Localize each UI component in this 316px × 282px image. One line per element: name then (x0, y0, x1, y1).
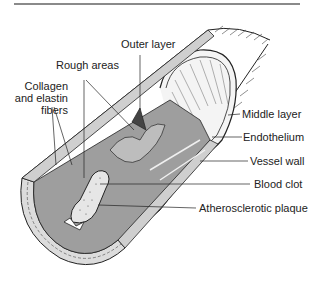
label-blood-clot: Blood clot (254, 178, 302, 190)
label-rough-areas: Rough areas (56, 59, 119, 71)
label-collagen-line2: and elastin (8, 92, 68, 104)
label-endothelium: Endothelium (243, 131, 304, 143)
label-vessel-wall: Vessel wall (250, 155, 304, 167)
label-outer-layer: Outer layer (121, 38, 175, 50)
label-collagen-fibers: Collagen and elastin fibers (8, 80, 68, 116)
label-atherosclerotic-plaque: Atherosclerotic plaque (199, 202, 308, 214)
label-collagen-line1: Collagen (8, 80, 68, 92)
label-middle-layer: Middle layer (242, 108, 301, 120)
label-collagen-line3: fibers (8, 104, 68, 116)
